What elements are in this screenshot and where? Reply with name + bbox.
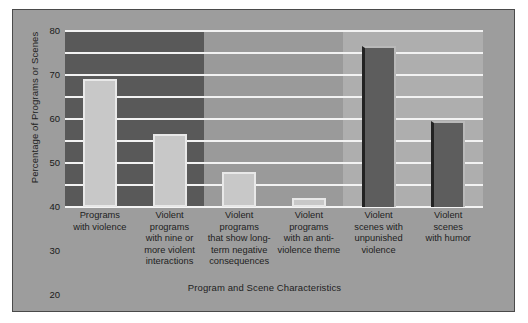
category-label-line: programs [136,222,204,234]
category-label-line: violence [345,245,413,257]
category-label-line: consequences [205,256,273,268]
category-label-line: more violent [136,245,204,257]
chart-panel: Percentage of Programs or Scenes 0102030… [12,9,515,312]
y-tick-label-60: 60 [49,113,60,124]
bar-5[interactable] [362,46,396,207]
category-label-line: with violence [66,222,134,234]
gridline-10: 10 [65,184,483,186]
category-label-line: Violent [136,210,204,222]
category-label-line: programs [205,222,273,234]
category-label-line: term negative [205,245,273,257]
bar-4[interactable] [292,198,326,207]
figure-root: Percentage of Programs or Scenes 0102030… [0,0,528,323]
gridline-40: 40 [65,118,483,120]
x-axis-category-labels: Programswith violenceViolentprogramswith… [65,210,483,280]
category-label-2: Violentprogramswith nine ormore violenti… [135,210,205,280]
y-tick-label-50: 50 [49,157,60,168]
y-tick-label-40: 40 [49,201,60,212]
category-label-1: Programswith violence [65,210,135,280]
category-label-line: scenes [414,222,482,234]
bar-3[interactable] [222,172,256,207]
category-label-line: Violent [275,210,343,222]
category-label-line: with nine or [136,233,204,245]
category-label-line: programs [275,222,343,234]
category-label-line: Programs [66,210,134,222]
category-label-line: Violent [205,210,273,222]
bar-6[interactable] [431,121,465,207]
gridline-30: 30 [65,140,483,142]
category-label-4: Violentprogramswith an anti-violence the… [274,210,344,280]
category-label-line: with humor [414,233,482,245]
x-axis-title: Program and Scene Characteristics [13,282,516,293]
bar-2[interactable] [153,134,187,207]
category-label-line: Violent [345,210,413,222]
category-label-line: that show long- [205,233,273,245]
category-label-line: with an anti- [275,233,343,245]
y-tick-label-30: 30 [49,245,60,256]
bar-1[interactable] [83,79,117,207]
gridline-70: 70 [65,52,483,54]
category-label-5: Violentscenes withunpunishedviolence [344,210,414,280]
category-label-line: Violent [414,210,482,222]
gridline-50: 50 [65,96,483,98]
category-label-line: unpunished [345,233,413,245]
y-axis-title: Percentage of Programs or Scenes [29,23,40,193]
category-label-6: Violentsceneswith humor [413,210,483,280]
category-label-3: Violentprogramsthat show long-term negat… [204,210,274,280]
y-tick-label-80: 80 [49,25,60,36]
gridline-0: 0 [65,206,483,208]
gridline-80: 80 [65,30,483,32]
gridline-60: 60 [65,74,483,76]
plot-area: 01020304050607080 [65,31,483,207]
category-label-line: violence theme [275,245,343,257]
y-tick-label-70: 70 [49,69,60,80]
gridline-20: 20 [65,162,483,164]
category-label-line: interactions [136,256,204,268]
category-label-line: scenes with [345,222,413,234]
